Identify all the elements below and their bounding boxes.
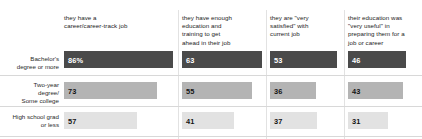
bar-two-year-enough-education: 55	[182, 82, 252, 99]
bar-value: 73	[68, 86, 76, 95]
bar-bachelors-career-track: 86%	[64, 51, 173, 68]
column-header-1: they have enough education and training …	[182, 14, 262, 47]
row-label-high-school: High school grad or less	[0, 113, 59, 129]
bar-high-school-career-track: 57	[64, 112, 137, 129]
bar-value: 63	[186, 55, 194, 64]
bar-value: 41	[186, 116, 194, 125]
row-label-bachelors: Bachelor's degree or more	[0, 55, 59, 71]
bar-bachelors-enough-education: 63	[182, 51, 262, 68]
bar-value: 31	[352, 116, 360, 125]
bar-value: 57	[68, 116, 76, 125]
column-header-0: they have a career/career-track job	[64, 14, 174, 30]
row-label-two-year: Two-year degree/ Some college	[0, 81, 59, 105]
grouped-bar-chart: they have a career/career-track job they…	[0, 0, 422, 139]
bar-value: 37	[274, 116, 282, 125]
bar-two-year-career-track: 73	[64, 82, 157, 99]
bar-value: 53	[274, 55, 282, 64]
bar-value: 86%	[68, 55, 83, 64]
column-header-3: their education was "very useful" in pre…	[348, 14, 422, 47]
bar-bachelors-very-useful: 46	[348, 51, 406, 68]
bar-value: 36	[274, 86, 282, 95]
row-divider-3	[0, 136, 422, 137]
row-divider-2	[0, 106, 422, 107]
bar-value: 46	[352, 55, 360, 64]
row-divider-1	[0, 75, 422, 76]
column-header-2: they are "very satisfied" with current j…	[270, 14, 340, 39]
bar-high-school-enough-education: 41	[182, 112, 234, 129]
bar-high-school-very-useful: 31	[348, 112, 388, 129]
bar-bachelors-very-satisfied: 53	[270, 51, 337, 68]
bar-value: 55	[186, 86, 194, 95]
bar-two-year-very-useful: 43	[348, 82, 403, 99]
bar-high-school-very-satisfied: 37	[270, 112, 317, 129]
bar-value: 43	[352, 86, 360, 95]
bar-two-year-very-satisfied: 36	[270, 82, 316, 99]
